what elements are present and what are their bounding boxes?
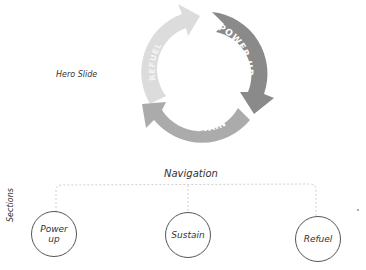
nav-node-label: Refuel — [298, 234, 338, 244]
sections-label: Sections — [6, 188, 15, 222]
nav-node-refuel[interactable]: Refuel — [295, 216, 341, 262]
nav-node-label: Sustain — [168, 230, 208, 240]
nav-node-power-up[interactable]: Power up — [31, 211, 77, 257]
nav-node-label: Power up — [34, 224, 74, 244]
nav-node-sustain[interactable]: Sustain — [165, 212, 211, 258]
stray-dot — [357, 209, 359, 211]
